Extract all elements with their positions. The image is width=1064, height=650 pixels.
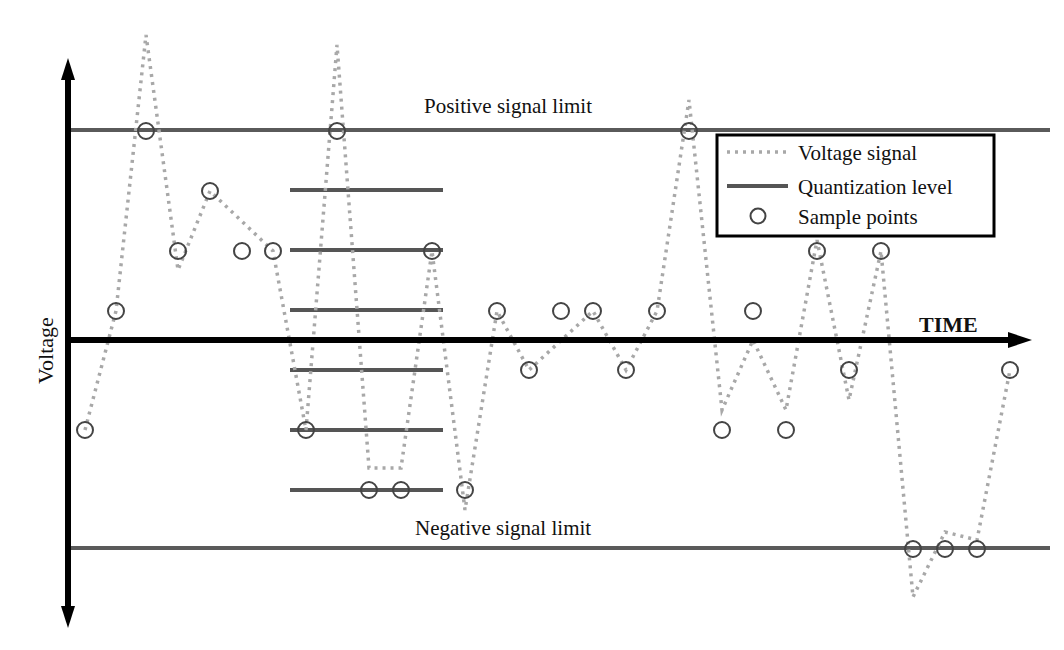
sample-point [489, 303, 505, 319]
positive-signal-limit-label: Positive signal limit [424, 94, 592, 118]
sample-point [745, 303, 761, 319]
x-axis-label: TIME [919, 312, 978, 337]
voltage-signal-line [85, 35, 1010, 597]
legend-item-voltage-signal: Voltage signal [798, 141, 917, 165]
arrow-up-icon [61, 58, 75, 80]
sample-point [521, 362, 537, 378]
legend-item-sample-points: Sample points [798, 205, 918, 229]
sample-point [809, 243, 825, 259]
sample-point [778, 422, 794, 438]
sample-point [170, 243, 186, 259]
quantization-diagram: Positive signal limit Negative signal li… [0, 0, 1064, 650]
arrow-down-icon [61, 606, 75, 628]
sample-point [714, 422, 730, 438]
sample-point [234, 243, 250, 259]
y-axis-label: Voltage [33, 317, 58, 384]
sample-point [457, 482, 473, 498]
arrow-right-icon [1008, 332, 1032, 348]
x-axis [68, 332, 1032, 348]
negative-signal-limit-label: Negative signal limit [415, 516, 591, 540]
sample-point [553, 303, 569, 319]
legend: Voltage signal Quantization level Sample… [717, 135, 994, 236]
legend-item-quantization-level: Quantization level [798, 175, 953, 199]
sample-point [202, 183, 218, 199]
sample-point [585, 303, 601, 319]
